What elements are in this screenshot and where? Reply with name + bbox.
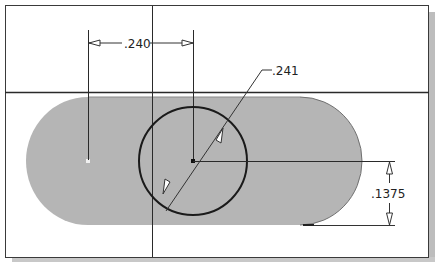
dimension-label-240[interactable]: .240 [124, 37, 151, 51]
dimension-label-1375[interactable]: .1375 [371, 187, 405, 201]
dimension-label-241[interactable]: .241 [272, 64, 299, 78]
sketch-canvas[interactable]: .240 .241 .1375 [0, 0, 446, 262]
